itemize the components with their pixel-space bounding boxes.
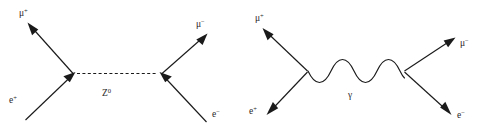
propagator-photon-wavy-line [308, 60, 405, 83]
leg-line-mu-minus [405, 40, 452, 71]
label-e-minus-bottom-right: e− [457, 109, 465, 121]
label-mu-minus-top-right: μ− [460, 37, 469, 49]
label-propagator-photon: γ [347, 90, 352, 100]
leg-line-e-plus [271, 72, 308, 111]
label-mu-plus-top-left: μ+ [255, 12, 264, 24]
label-e-plus-bottom-left: e+ [9, 94, 17, 106]
label-e-plus-bottom-left: e+ [249, 105, 257, 117]
label-e-minus-bottom-right: e− [212, 108, 220, 120]
leg-e-plus-bottom-left [26, 72, 76, 120]
leg-line-mu-plus [32, 27, 74, 74]
arrow-head-e-minus [160, 72, 172, 82]
feynman-diagram-canvas: μ+ μ− e+ e− Z0 [0, 0, 482, 134]
leg-mu-plus-top-left [263, 28, 308, 71]
leg-mu-plus-top-left [28, 23, 74, 75]
leg-line-e-plus [26, 75, 73, 120]
leg-mu-minus-top-right [162, 34, 208, 75]
label-mu-plus-top-left: μ+ [19, 7, 28, 19]
diagram-photon-exchange: μ+ μ− e+ e− γ [249, 12, 469, 121]
leg-line-mu-plus [267, 32, 308, 71]
label-mu-minus-top-right: μ− [196, 18, 205, 30]
leg-line-mu-minus [162, 37, 204, 74]
arrow-head-mu-minus [196, 34, 207, 46]
diagram-z-boson-exchange: μ+ μ− e+ e− Z0 [9, 7, 220, 123]
feynman-diagram-figure: μ+ μ− e+ e− Z0 [0, 0, 482, 134]
leg-e-plus-bottom-left [267, 72, 308, 115]
arrow-head-e-plus [63, 72, 75, 82]
leg-mu-minus-top-right [405, 38, 456, 72]
arrow-head-mu-minus [444, 38, 456, 48]
leg-e-minus-bottom-right [160, 72, 207, 122]
leg-e-minus-bottom-right [405, 72, 452, 115]
label-propagator-z-boson: Z0 [102, 87, 112, 99]
leg-line-e-minus [405, 72, 448, 111]
arrow-head-mu-plus [263, 28, 274, 40]
leg-line-e-minus [163, 75, 207, 122]
arrow-head-e-minus [440, 102, 451, 115]
